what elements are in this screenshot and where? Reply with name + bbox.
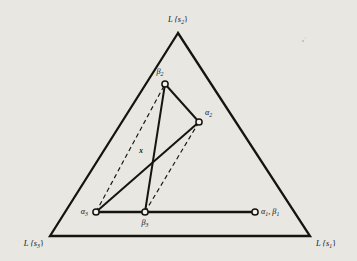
simplex-diagram: L {s2} L {s3} L {s1} β2 α2 α3 β3 α1, β1 …	[0, 0, 357, 261]
paper-speck	[302, 40, 304, 42]
alpha2-sub: 2	[209, 112, 212, 118]
beta1-sub: 1	[276, 211, 279, 217]
vertex-top-text: L {s	[167, 15, 181, 24]
paper-speck	[304, 37, 305, 38]
vertex-label-top: L {s2}	[167, 15, 188, 25]
alpha3-sub: 3	[84, 211, 88, 217]
vertex-label-bottom-right: L {s1}	[315, 239, 336, 249]
node-alpha1-beta1[interactable]	[252, 209, 258, 215]
node-alpha3[interactable]	[93, 209, 99, 215]
vertex-top-close: }	[184, 15, 188, 24]
vertex-br-close: }	[332, 239, 336, 248]
beta2-sub: 2	[161, 71, 164, 77]
node-beta3[interactable]	[142, 209, 148, 215]
node-alpha2[interactable]	[196, 119, 202, 125]
vertex-bl-text: L {s	[23, 239, 37, 248]
vertex-bl-close: }	[40, 239, 44, 248]
diagram-background	[0, 0, 357, 261]
vertex-br-text: L {s	[315, 239, 329, 248]
beta3-sub: 3	[145, 222, 149, 228]
node-beta2[interactable]	[162, 81, 168, 87]
point-label-x: x	[138, 146, 143, 155]
vertex-label-bottom-left: L {s3}	[23, 239, 44, 249]
